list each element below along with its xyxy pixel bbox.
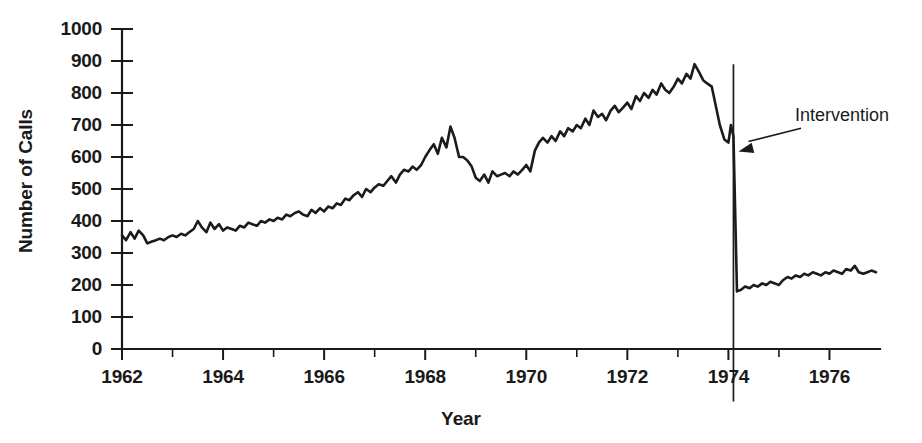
x-axis-ticks bbox=[122, 349, 829, 360]
x-tick-label: 1974 bbox=[683, 366, 773, 388]
y-tick-label: 100 bbox=[10, 306, 102, 328]
x-axis-title: Year bbox=[0, 408, 922, 430]
annotation-arrow bbox=[738, 128, 801, 153]
x-tick-label: 1970 bbox=[481, 366, 571, 388]
x-tick-label: 1964 bbox=[178, 366, 268, 388]
y-axis-title: Number of Calls bbox=[15, 71, 37, 291]
x-tick-label: 1976 bbox=[784, 366, 874, 388]
y-tick-label: 900 bbox=[10, 50, 102, 72]
arrow-shaft bbox=[748, 128, 801, 141]
chart-figure: 10009008007006005004003002001000 1962196… bbox=[0, 0, 922, 443]
axes bbox=[122, 29, 880, 349]
arrow-head bbox=[738, 143, 754, 153]
x-tick-label: 1966 bbox=[279, 366, 369, 388]
y-tick-label: 1000 bbox=[10, 18, 102, 40]
y-tick-label: 0 bbox=[10, 338, 102, 360]
x-tick-label: 1972 bbox=[582, 366, 672, 388]
x-tick-label: 1968 bbox=[380, 366, 470, 388]
x-tick-label: 1962 bbox=[77, 366, 167, 388]
data-series bbox=[122, 64, 876, 291]
intervention-annotation-label: Intervention bbox=[795, 105, 889, 126]
series-path bbox=[122, 64, 876, 291]
